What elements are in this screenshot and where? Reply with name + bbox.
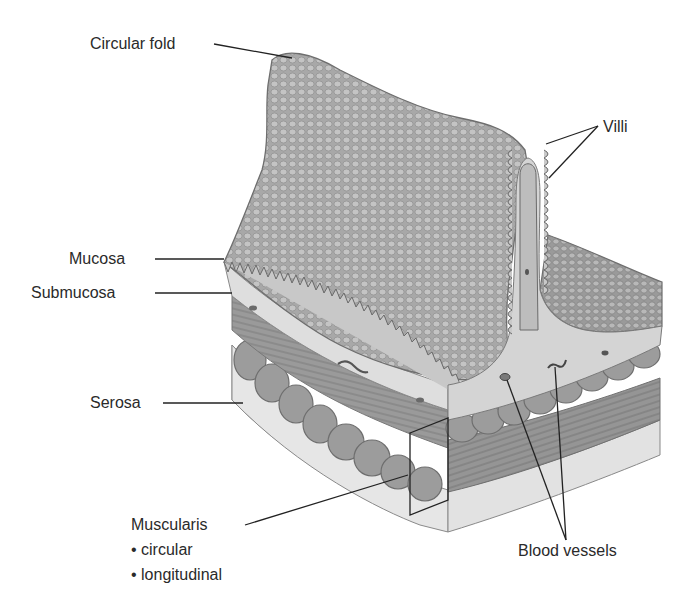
label-blood-vessels: Blood vessels [518,541,617,560]
label-mucosa: Mucosa [69,249,125,268]
label-villi: Villi [603,117,628,136]
leader-circular-fold [214,44,292,58]
label-circular-fold: Circular fold [90,34,175,53]
label-muscularis-circular: • circular [131,540,193,559]
illustration [0,0,685,607]
label-serosa: Serosa [90,393,141,412]
label-muscularis: Muscularis [131,515,207,534]
intestine-wall-diagram: Circular fold Villi Mucosa Submucosa Ser… [0,0,685,607]
label-submucosa: Submucosa [31,283,116,302]
label-muscularis-longitudinal: • longitudinal [131,565,222,584]
